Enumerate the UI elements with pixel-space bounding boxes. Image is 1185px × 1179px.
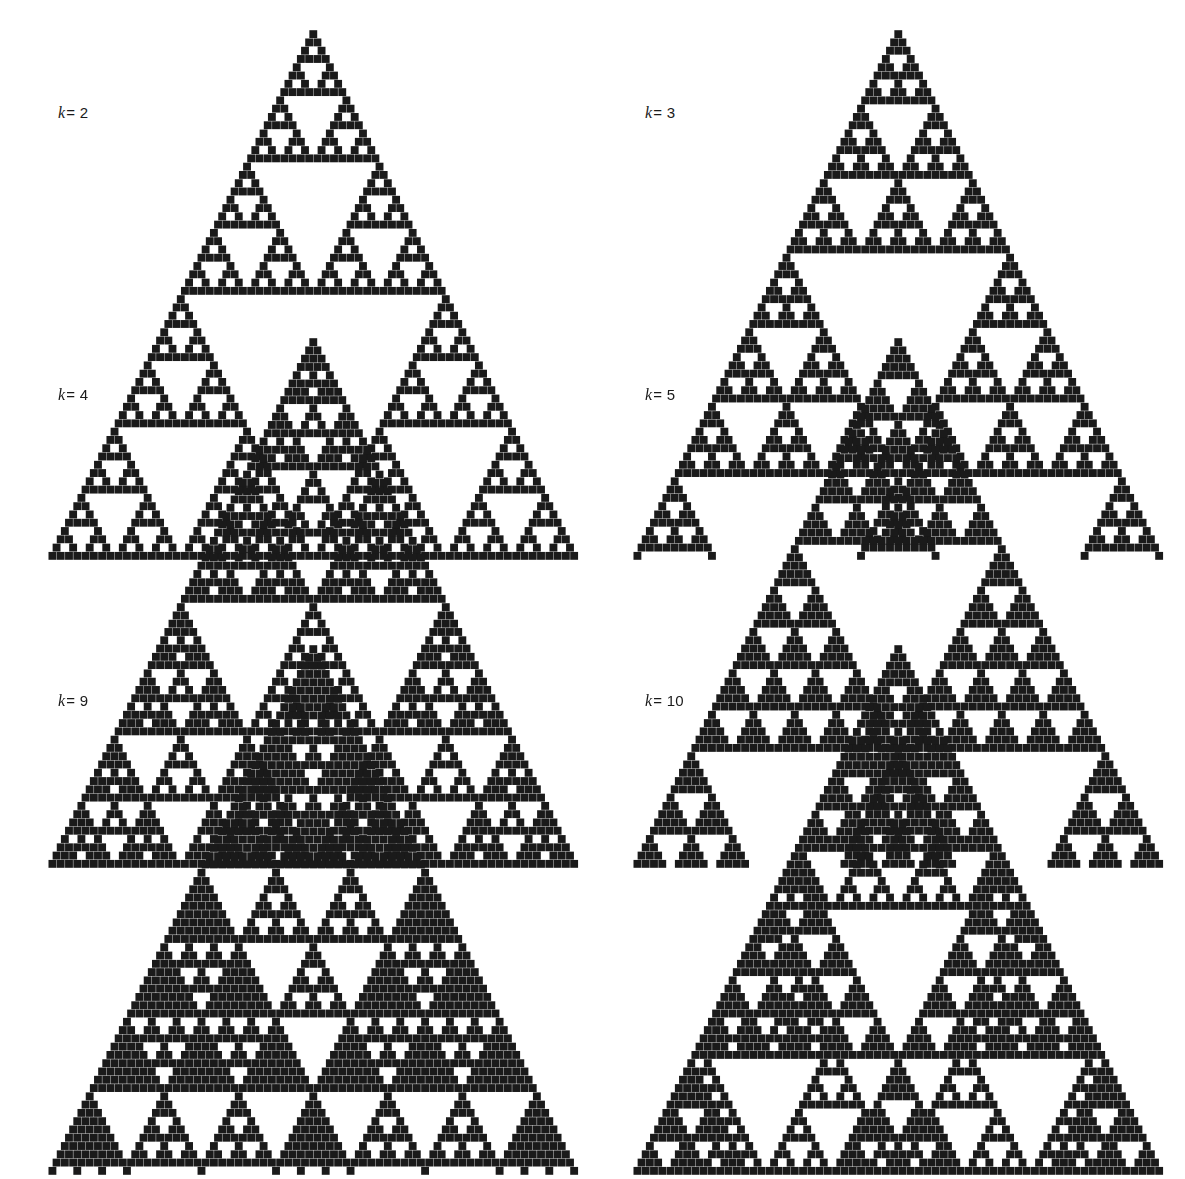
pascal-triangle-mod-9 xyxy=(40,645,587,1179)
pascal-triangle-mod-10 xyxy=(625,645,1172,1179)
panel-k10: k= 10 xyxy=(0,0,592,316)
